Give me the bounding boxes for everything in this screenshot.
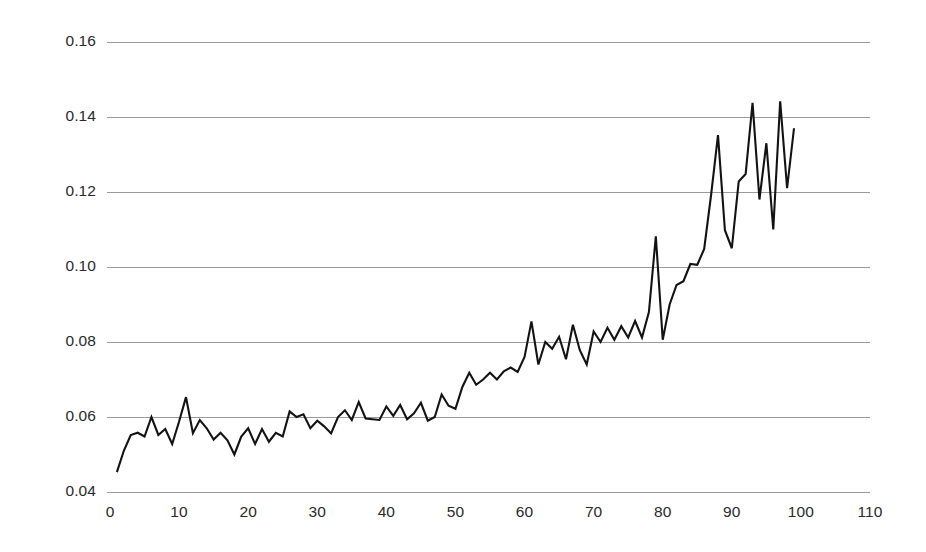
data-series-group [117, 101, 794, 472]
x-tick-label-7: 70 [559, 503, 629, 521]
x-tick-label-10: 100 [766, 503, 836, 521]
x-tick-label-0: 0 [75, 503, 145, 521]
chart-plot-area [0, 0, 926, 552]
line-chart: 0.040.060.080.100.120.140.16 01020304050… [0, 0, 926, 552]
y-tick-label-6: 0.16 [24, 32, 96, 50]
y-tick-label-5: 0.14 [24, 107, 96, 125]
x-tick-label-8: 80 [628, 503, 698, 521]
y-tick-label-4: 0.12 [24, 182, 96, 200]
x-tick-label-3: 30 [282, 503, 352, 521]
x-tick-label-2: 20 [213, 503, 283, 521]
y-tick-label-3: 0.10 [24, 257, 96, 275]
y-tick-label-0: 0.04 [24, 482, 96, 500]
x-tick-label-11: 110 [835, 503, 905, 521]
data-line-series-1 [117, 101, 794, 472]
gridlines-group [107, 43, 870, 493]
x-tick-label-6: 60 [490, 503, 560, 521]
y-tick-label-2: 0.08 [24, 332, 96, 350]
x-tick-label-5: 50 [420, 503, 490, 521]
y-tick-label-1: 0.06 [24, 407, 96, 425]
x-tick-label-9: 90 [697, 503, 767, 521]
x-tick-label-1: 10 [144, 503, 214, 521]
x-tick-label-4: 40 [351, 503, 421, 521]
